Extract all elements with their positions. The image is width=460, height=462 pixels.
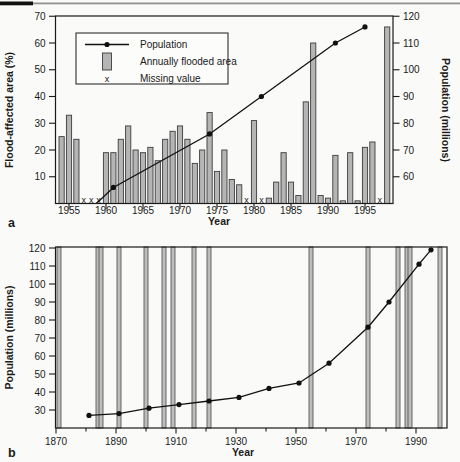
x-tick-label: 1910 — [165, 436, 188, 447]
flooded-area-bar-1969 — [170, 131, 175, 203]
flood-event-bar-1955 — [309, 247, 313, 428]
flood-event-bar-1998 — [438, 247, 442, 428]
chart-b-ylabel: Population (millions) — [3, 286, 15, 390]
flood-event-bar-1906 — [162, 247, 166, 428]
y-tick-label: 120 — [29, 243, 46, 254]
legend-label: Population — [140, 39, 187, 50]
flooded-area-bar-1995 — [362, 147, 367, 203]
y-tick-label: 80 — [34, 315, 46, 326]
chart-a: xxxxxx1020304050607060708090100110120195… — [3, 11, 452, 230]
y-tick-label-left: 30 — [34, 118, 46, 129]
flooded-area-bar-1971 — [185, 139, 190, 203]
panel-b-label: b — [8, 446, 16, 460]
flooded-area-bar-1988 — [311, 43, 316, 204]
flooded-area-bar-1987 — [303, 102, 308, 204]
flooded-area-bar-1967 — [155, 161, 160, 204]
flooded-area-bar-1963 — [126, 126, 131, 204]
population-point-1921 — [206, 398, 211, 403]
x-tick-label: 1870 — [45, 436, 68, 447]
population-point-1974 — [207, 131, 212, 136]
population-point-1941 — [266, 386, 271, 391]
y-tick-label-right: 110 — [403, 38, 419, 49]
population-point-1991 — [333, 40, 338, 45]
x-tick-label: 1995 — [354, 205, 377, 216]
population-point-1961 — [326, 361, 331, 366]
top-rule-accent — [0, 2, 33, 6]
flooded-area-bar-1996 — [370, 142, 375, 204]
flooded-area-bar-1976 — [222, 150, 227, 204]
legend-label: Annually flooded area — [140, 56, 237, 67]
legend-label: Missing value — [140, 73, 201, 84]
figure-canvas: xxxxxx1020304050607060708090100110120195… — [0, 0, 460, 462]
y-tick-label-right: 90 — [403, 91, 415, 102]
y-tick-label-left: 40 — [34, 91, 46, 102]
flooded-area-bar-1978 — [237, 185, 242, 204]
y-tick-label: 30 — [34, 405, 46, 416]
y-tick-label-left: 60 — [34, 38, 46, 49]
flood-event-bar-1871 — [57, 247, 61, 428]
legend-dot-icon — [104, 42, 109, 47]
x-tick-label: 1970 — [345, 436, 368, 447]
flooded-area-bar-1966 — [148, 147, 153, 203]
y-tick-label-right: 60 — [403, 171, 415, 182]
flooded-area-bar-1985 — [288, 182, 293, 203]
x-tick-label: 1990 — [317, 205, 340, 216]
flooded-area-bar-1954 — [59, 137, 64, 204]
x-tick-label: 1950 — [285, 436, 308, 447]
population-point-1911 — [176, 402, 181, 407]
y-tick-label: 100 — [29, 279, 46, 290]
x-tick-label: 1980 — [243, 205, 266, 216]
x-tick-label: 1990 — [405, 436, 428, 447]
flooded-area-bar-1991 — [333, 155, 338, 203]
chart-b-frame — [56, 247, 448, 428]
x-tick-label: 1965 — [132, 205, 155, 216]
chart-b: 3040506070809010011012018701890191019301… — [3, 243, 447, 461]
flood-event-bar-1885 — [99, 247, 103, 428]
x-tick-label: 1890 — [105, 436, 128, 447]
flooded-area-bar-1973 — [200, 150, 205, 204]
legend-bar-icon — [103, 53, 112, 70]
population-point-1974 — [365, 325, 370, 330]
population-point-1961 — [111, 185, 116, 190]
population-point-1951 — [296, 380, 301, 385]
flooded-area-bar-1982 — [266, 198, 271, 203]
y-tick-label: 110 — [30, 261, 46, 272]
chart-a-ylabel-left: Flood-affected area (%) — [3, 52, 15, 168]
top-rule — [33, 3, 460, 5]
flooded-area-bar-1986 — [296, 195, 301, 203]
y-tick-label-left: 20 — [34, 145, 46, 156]
flood-population-figure: xxxxxx1020304050607060708090100110120195… — [0, 0, 460, 462]
flooded-area-bar-1977 — [229, 179, 234, 203]
panel-a-label: a — [8, 216, 16, 230]
flooded-area-bar-1970 — [177, 126, 182, 204]
y-tick-label-right: 70 — [403, 145, 415, 156]
flooded-area-bar-1983 — [274, 182, 279, 203]
flooded-area-bar-1965 — [140, 153, 145, 204]
chart-b-plot: 3040506070809010011012018701890191019301… — [29, 243, 442, 448]
flooded-area-bar-1968 — [163, 139, 168, 203]
population-point-1981 — [386, 299, 391, 304]
y-tick-label: 90 — [34, 297, 46, 308]
population-point-1881 — [86, 413, 91, 418]
y-tick-label-left: 70 — [34, 11, 46, 22]
flooded-area-bar-1974 — [207, 113, 212, 204]
x-tick-label: 1970 — [169, 205, 192, 216]
population-point-1991 — [416, 262, 421, 267]
y-tick-label: 60 — [34, 351, 46, 362]
flooded-area-bar-1990 — [325, 198, 330, 203]
flooded-area-bar-1972 — [192, 163, 197, 203]
population-point-1981 — [259, 94, 264, 99]
y-tick-label: 40 — [34, 387, 46, 398]
flood-event-bar-1891 — [117, 247, 121, 428]
flood-event-bar-1900 — [144, 247, 148, 428]
flood-event-bar-1974 — [366, 247, 370, 428]
flooded-area-bar-1980 — [251, 121, 256, 204]
flooded-area-bar-1961 — [111, 153, 116, 204]
flooded-area-bar-1998 — [385, 27, 390, 204]
chart-a-xlabel: Year — [208, 215, 230, 227]
chart-a-legend: PopulationAnnually flooded areaxMissing … — [76, 33, 237, 84]
population-point-1931 — [236, 395, 241, 400]
x-tick-label: 1960 — [95, 205, 118, 216]
chart-a-ylabel-right: Population (millions) — [440, 58, 452, 162]
flood-event-bar-1916 — [192, 247, 196, 428]
